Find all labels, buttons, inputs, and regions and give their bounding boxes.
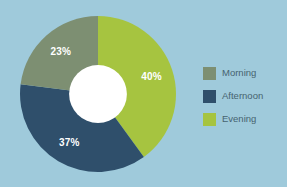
chart-canvas: 40%37%23% MorningAfternoonEvening <box>0 0 287 187</box>
slice-label-morning: 23% <box>50 46 71 57</box>
legend-swatch-evening <box>203 113 216 126</box>
donut-svg: 40%37%23% <box>20 16 176 172</box>
legend-item-afternoon[interactable]: Afternoon <box>203 85 283 107</box>
legend-item-evening[interactable]: Evening <box>203 108 283 130</box>
legend-item-morning[interactable]: Morning <box>203 62 283 84</box>
legend-label: Afternoon <box>222 91 263 101</box>
donut-center-hole <box>69 65 127 123</box>
donut-chart: 40%37%23% <box>20 16 176 172</box>
legend-label: Morning <box>222 68 256 78</box>
legend-swatch-afternoon <box>203 90 216 103</box>
legend-label: Evening <box>222 114 256 124</box>
slice-label-evening: 40% <box>141 71 162 82</box>
slice-label-afternoon: 37% <box>59 137 80 148</box>
legend-swatch-morning <box>203 67 216 80</box>
chart-legend: MorningAfternoonEvening <box>203 62 283 131</box>
